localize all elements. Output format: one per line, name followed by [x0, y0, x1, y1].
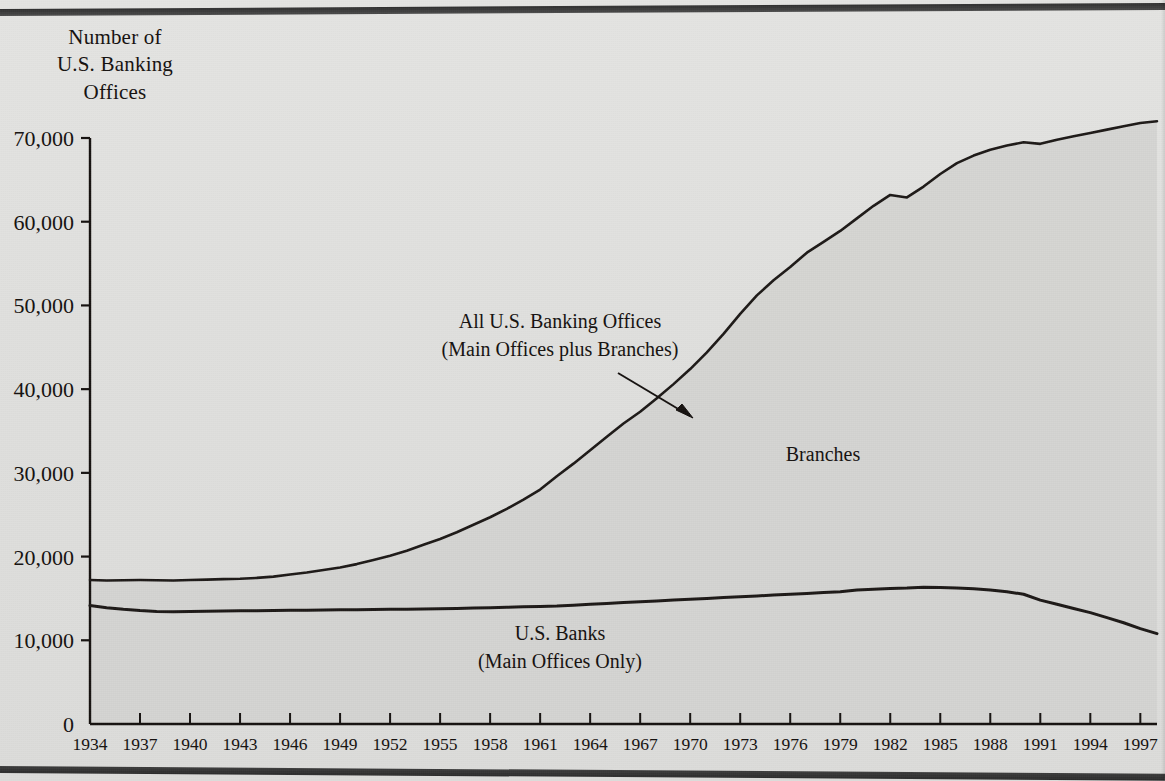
y-axis-tick-label: 60,000	[14, 210, 75, 235]
y-axis-tick-label: 70,000	[14, 126, 75, 151]
x-axis-tick-label: 1964	[573, 734, 608, 754]
annotation-total-offices-line-1: All U.S. Banking Offices	[459, 310, 662, 333]
x-axis-tick-label: 1940	[173, 734, 208, 754]
annotation-branches: Branches	[786, 443, 861, 465]
y-axis-tick-label: 30,000	[14, 461, 75, 486]
x-axis-tick-label: 1949	[323, 734, 358, 754]
x-axis-tick-label: 1982	[873, 734, 908, 754]
x-axis-tick-label: 1979	[823, 734, 858, 754]
y-axis-tick-label: 10,000	[14, 628, 75, 653]
x-axis-tick-label: 1943	[223, 734, 258, 754]
x-axis-tick-label: 1955	[423, 734, 458, 754]
banking-offices-area-chart: 010,00020,00030,00040,00050,00060,00070,…	[0, 0, 1165, 781]
x-axis-tick-label: 1967	[623, 734, 658, 754]
x-axis-tick-label: 1973	[723, 734, 758, 754]
x-axis-tick-label: 1961	[523, 734, 558, 754]
x-axis-tick-label: 1991	[1023, 734, 1058, 754]
x-axis-tick-label: 1988	[973, 734, 1008, 754]
x-axis-tick-label: 1946	[273, 734, 308, 754]
y-axis-tick-label: 40,000	[14, 377, 75, 402]
x-axis-tick-label: 1952	[373, 734, 408, 754]
x-axis-tick-label: 1994	[1073, 734, 1108, 754]
chart-page: Number of U.S. Banking Offices 010,00020…	[0, 0, 1165, 781]
x-axis-tick-label: 1934	[73, 734, 108, 754]
chart-plot-area: 010,00020,00030,00040,00050,00060,00070,…	[0, 0, 1165, 781]
annotation-banks-line-2: (Main Offices Only)	[478, 650, 642, 673]
x-axis-tick-label: 1985	[923, 734, 958, 754]
y-axis-tick-label: 50,000	[14, 293, 75, 318]
x-axis-tick-label: 1976	[773, 734, 808, 754]
annotation-total-offices-line-2: (Main Offices plus Branches)	[442, 338, 679, 361]
y-axis-tick-label: 20,000	[14, 545, 75, 570]
x-axis-tick-label: 1997	[1123, 734, 1158, 754]
x-axis-tick-label: 1958	[473, 734, 508, 754]
x-axis-tick-label: 1970	[673, 734, 708, 754]
annotation-banks-line-1: U.S. Banks	[515, 622, 606, 644]
x-axis-tick-label: 1937	[123, 734, 158, 754]
